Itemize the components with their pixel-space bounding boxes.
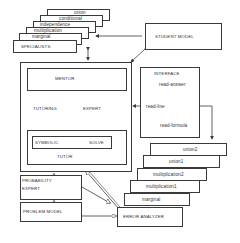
problem-model-box[interactable]: PROBLEM MODEL <box>20 202 82 222</box>
error-card-label: multiplication1 <box>146 184 177 189</box>
error-card-label: multiplication2 <box>153 172 184 177</box>
error-analyzer-title: ERROR ANALYZER <box>123 214 164 219</box>
error-card-label: union1 <box>169 159 183 164</box>
interface-item-read-answer[interactable]: read-answer <box>159 82 186 87</box>
interface-title: INTERFACE <box>154 71 180 76</box>
probability-expert-box[interactable]: PROBABILITY EXPERT <box>20 175 82 200</box>
probability-expert-title-line2: EXPERT <box>22 186 40 191</box>
interface-item-read-line[interactable]: read-line <box>146 104 165 109</box>
student-model-title: STUDENT MODEL <box>155 34 194 39</box>
error-card-label: union2 <box>183 147 197 152</box>
error-card-multiplication1[interactable]: multiplication1 <box>130 180 200 193</box>
error-card-union1[interactable]: union1 <box>143 155 220 168</box>
expert-label: EXPERT <box>83 106 101 111</box>
error-analyzer-box[interactable]: ERROR ANALYZER <box>117 207 183 227</box>
probability-expert-title-line1: PROBABILITY <box>22 178 52 183</box>
error-card-label: marginal <box>142 197 160 202</box>
symbolic-solve-box[interactable]: SYMBOLIC SOLVE <box>32 136 112 149</box>
solve-label: SOLVE <box>89 140 104 145</box>
problem-model-title: PROBLEM MODEL <box>23 209 63 214</box>
error-card-marginal[interactable]: marginal <box>124 193 190 206</box>
interface-item-read-formula[interactable]: read-formula <box>160 123 187 128</box>
mentor-title: MENTOR <box>55 76 75 81</box>
specialists-box[interactable]: SPECIALISTS <box>13 40 77 53</box>
student-model-box[interactable]: STUDENT MODEL <box>145 23 222 50</box>
mentor-box[interactable]: MENTOR <box>27 68 127 91</box>
specialist-label: marginal <box>32 34 50 39</box>
tutor-title: TUTOR <box>57 154 73 159</box>
specialists-title: SPECIALISTS <box>21 44 50 49</box>
interface-box[interactable]: INTERFACE read-answer read-line read-for… <box>140 67 200 138</box>
symbolic-label: SYMBOLIC <box>35 140 59 145</box>
tutoring-label: TUTORING <box>33 106 57 111</box>
